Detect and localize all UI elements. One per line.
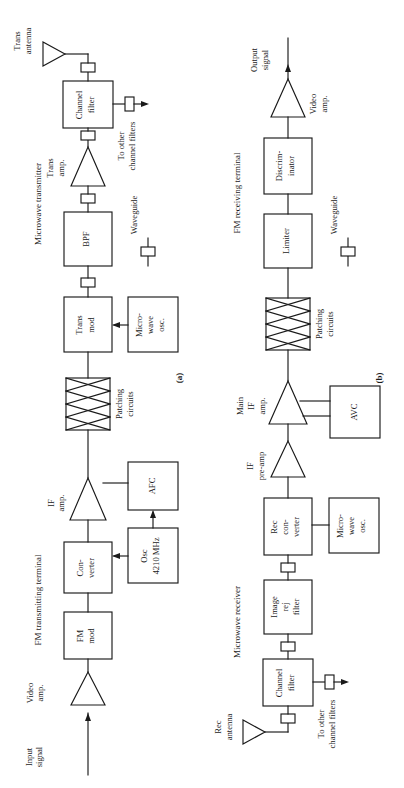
afc-label: AFC [147, 477, 157, 494]
panel-b-title-right: FM receiving terminal [232, 152, 242, 233]
microwave-osc-b-label-l1: Micro- [335, 514, 345, 538]
bpf-label: BPF [81, 231, 91, 247]
to-other-filters-label-b-l1: To other [316, 709, 326, 738]
image-rej-label-l1: Image [269, 596, 279, 618]
to-other-filters-label-a-l2: channel filters [127, 121, 137, 171]
waveguide-flange-a1 [81, 278, 95, 287]
video-amp-label-l2: amp. [35, 685, 45, 702]
discriminator-label-l2: inator [286, 156, 296, 176]
channel-filter-label-a-l2: filter [86, 97, 96, 114]
block-diagram-svg: FM transmitting terminal Microwave trans… [0, 0, 404, 788]
main-if-amp-label-l3: amp. [257, 398, 267, 415]
channel-filter-label-a-l1: Channel [74, 90, 84, 119]
waveguide-flange-b1 [281, 714, 295, 723]
caption-a: (a) [174, 373, 184, 384]
video-amp-b-label-l2: amp. [319, 96, 329, 113]
patching-label-l1: Patching [114, 388, 124, 419]
trans-amp-label-l1: Trans [45, 158, 55, 178]
discriminator-label-l1: Discrim- [274, 151, 284, 182]
channel-filter-label-b-l1: Channel [274, 668, 284, 697]
caption-b: (b) [374, 372, 384, 383]
trans-mod-label-l2: mod [86, 317, 96, 333]
microwave-osc-b-label-l3: osc. [357, 519, 367, 533]
converter-label-l2: verter [86, 558, 96, 578]
waveguide-flange-b4 [281, 563, 295, 572]
panel-b-title-left: Microwave receiver [232, 586, 242, 658]
rec-converter-label-l2: con- [280, 519, 290, 534]
image-rej-label-l3: filter [291, 599, 301, 616]
waveguide-flange-a4 [125, 97, 134, 111]
rec-antenna-label-l2: antenna [224, 713, 234, 740]
patching-label-l2: circuits [125, 391, 135, 417]
waveguide-flange-a3 [81, 131, 95, 140]
image-rej-label-l2: rej [280, 602, 290, 611]
microwave-osc-label-l2: wave [145, 316, 155, 334]
panel-a-title-right: Microwave transmitter [33, 163, 43, 245]
rec-converter-label-l3: verter [291, 517, 301, 537]
osc-label-l1: Osc [139, 549, 149, 563]
input-signal-label-l2: signal [34, 746, 44, 767]
converter-label-l1: Con- [75, 559, 85, 576]
channel-filter-label-b-l2: filter [286, 675, 296, 692]
fm-mod-label-l2: mod [86, 628, 96, 644]
microwave-osc-label-l3: osc. [156, 318, 166, 332]
video-amp-label-l1: Video [25, 683, 35, 704]
output-signal-label-l1: Output [249, 47, 259, 71]
rec-antenna-label-l1: Rec [213, 720, 223, 734]
rec-converter-label-l1: Rec [269, 520, 279, 534]
waveguide-label-a: Waveguide [129, 196, 139, 235]
waveguide-flange-b3 [281, 642, 295, 651]
trans-antenna-label-l1: Trans [12, 31, 22, 51]
trans-antenna-label-l2: antenna [23, 27, 33, 54]
if-amp-label-l1: IF [46, 499, 56, 507]
video-amp-b-label-l1: Video [308, 94, 318, 115]
waveguide-flange-b2 [325, 675, 334, 689]
waveguide-flange-a5 [81, 63, 95, 72]
limiter-label: Limiter [281, 228, 291, 254]
main-if-amp-label-l1: Main [235, 396, 245, 415]
patching-label-b-l2: circuits [325, 311, 335, 337]
main-if-amp-label-l2: IF [246, 402, 256, 410]
osc-label-l2: 4210 MHz [151, 537, 161, 574]
patching-label-b-l1: Patching [314, 308, 324, 339]
trans-mod-label-l1: Trans [74, 315, 84, 335]
if-pre-amp-label-l2: pre-amp [256, 452, 266, 481]
output-signal-label-l2: signal [260, 49, 270, 70]
figure-canvas: FM transmitting terminal Microwave trans… [0, 0, 404, 788]
waveguide-flange-a2 [81, 194, 95, 203]
avc-label: AVC [349, 403, 359, 420]
microwave-osc-b-label-l2: wave [346, 517, 356, 535]
to-other-filters-label-b-l2: channel filters [327, 699, 337, 749]
if-amp-label-l2: amp. [56, 495, 66, 512]
trans-amp-label-l2: amp. [56, 160, 66, 177]
if-pre-amp-label-l1: IF [245, 462, 255, 470]
fm-mod-label-l1: FM [75, 629, 85, 642]
panel-a-title-left: FM transmitting terminal [33, 554, 43, 645]
background [0, 0, 404, 788]
input-signal-label-l1: Input [24, 747, 34, 766]
waveguide-label-b: Waveguide [329, 196, 339, 235]
microwave-osc-label-l1: Micro- [134, 313, 144, 337]
to-other-filters-label-a-l1: To other [116, 131, 126, 160]
